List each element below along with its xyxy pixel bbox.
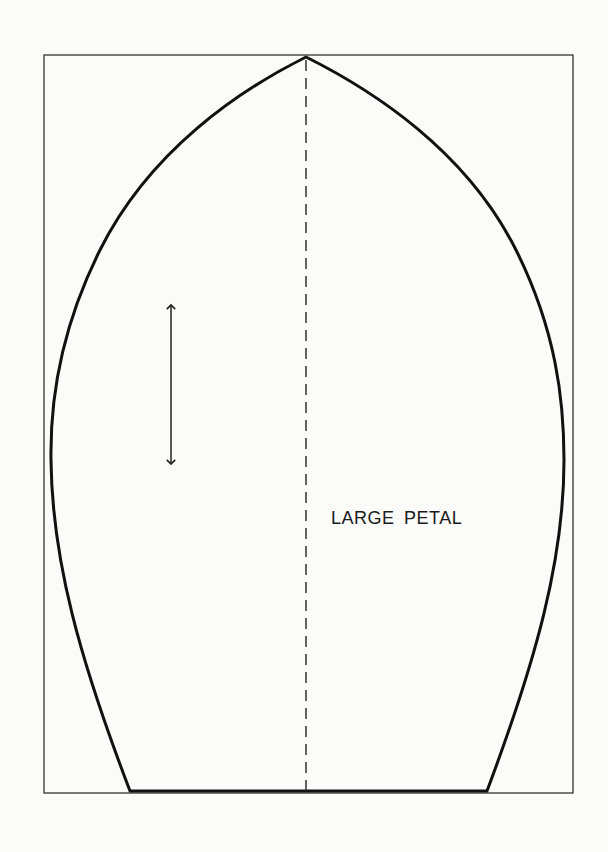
petal-outline [51, 57, 564, 791]
pattern-frame [44, 55, 573, 793]
pattern-canvas [0, 0, 608, 852]
piece-label: LARGE PETAL [331, 508, 462, 529]
